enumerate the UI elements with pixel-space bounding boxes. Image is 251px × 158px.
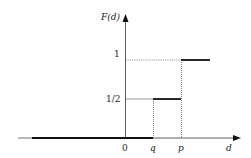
- y-axis-arrow-icon: [123, 14, 129, 22]
- x-axis-label: d: [226, 143, 232, 153]
- x-tick-p: p: [178, 143, 184, 153]
- y-axis-label: F(d): [100, 12, 121, 22]
- y-tick-one: 1: [114, 49, 120, 59]
- y-tick-half: 1/2: [106, 94, 120, 104]
- x-tick-q: q: [150, 143, 156, 153]
- x-tick-origin: 0: [122, 143, 128, 153]
- x-axis-arrow-icon: [233, 135, 241, 141]
- cdf-step-chart: F(d) 1 1/2 0 q p d: [0, 0, 251, 158]
